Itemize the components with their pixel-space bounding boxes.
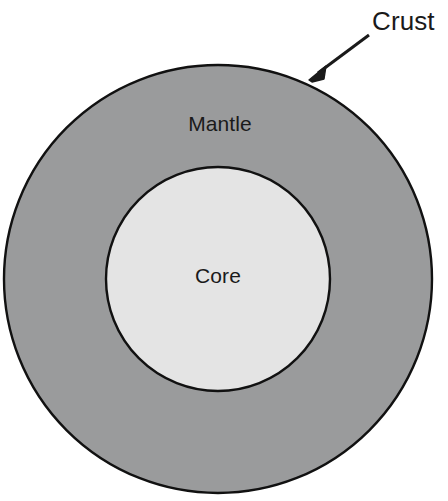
diagram-canvas: Mantle Core Crust — [0, 0, 448, 501]
core-label: Core — [195, 264, 241, 287]
mantle-label: Mantle — [188, 112, 252, 135]
crust-label: Crust — [372, 6, 435, 36]
earth-layers-diagram: Mantle Core Crust — [0, 0, 448, 501]
crust-callout-arrow — [309, 35, 369, 82]
